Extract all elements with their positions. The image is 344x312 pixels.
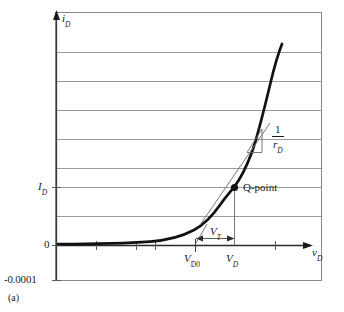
slope-denominator: rD	[272, 138, 284, 155]
diode-curve	[58, 44, 282, 244]
plot-canvas	[0, 0, 344, 312]
vt-label: VT	[210, 226, 221, 240]
y-tick-label-zero: 0	[44, 239, 50, 250]
fraction-bar	[272, 136, 284, 137]
x-tick-label-vd0: VD0	[184, 253, 200, 267]
x-tick-label-vd: VD	[226, 253, 238, 267]
x-axis-label: vD	[312, 247, 322, 261]
tangent-line	[200, 123, 270, 225]
slope-triangle	[247, 129, 262, 153]
diode-iv-figure: iD vD ID 0 -0.0001 (a) VD0 VD VT Q-point…	[0, 0, 344, 312]
figure-caption: (a)	[8, 293, 19, 303]
y-tick-label-id: ID	[38, 181, 47, 195]
qpoint-label: Q-point	[243, 182, 277, 193]
slope-numerator: 1	[272, 124, 284, 135]
slope-label: 1 rD	[272, 124, 284, 155]
y-axis-min-label: -0.0001	[4, 274, 37, 285]
qpoint-marker	[231, 184, 238, 191]
y-axis-label: iD	[62, 13, 70, 27]
y-axis	[53, 10, 60, 280]
